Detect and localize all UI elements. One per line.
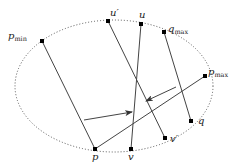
direction-arrow-icon: [146, 87, 176, 101]
point-q_max: [162, 30, 166, 34]
label-v: v: [128, 151, 134, 162]
label-p_min: pmin: [8, 30, 27, 43]
label-q_max: qmax: [168, 23, 188, 36]
labels-group: pminu′uqmaxpmaxqv′vp: [8, 7, 228, 162]
label-p: p: [92, 151, 99, 162]
point-v_prime: [163, 136, 167, 140]
segment-q_max-q: [164, 32, 191, 121]
point-p_max: [203, 74, 207, 78]
label-u: u: [139, 9, 145, 20]
point-q: [189, 119, 193, 123]
segments-group: [42, 21, 205, 149]
geometry-diagram: pminu′uqmaxpmaxqv′vp: [0, 0, 237, 166]
dotted-boundary-ellipse: [15, 20, 213, 152]
label-q: q: [198, 115, 204, 126]
direction-arrow-icon: [84, 112, 132, 120]
point-p_min: [40, 39, 44, 43]
point-u_prime: [106, 19, 110, 23]
segment-p_min-p: [42, 41, 95, 149]
points-group: [40, 19, 207, 151]
label-v_prime: v′: [170, 133, 179, 144]
label-p_max: pmax: [208, 66, 228, 79]
label-u_prime: u′: [110, 7, 119, 18]
arrows-group: [84, 87, 176, 120]
point-u: [139, 22, 143, 26]
